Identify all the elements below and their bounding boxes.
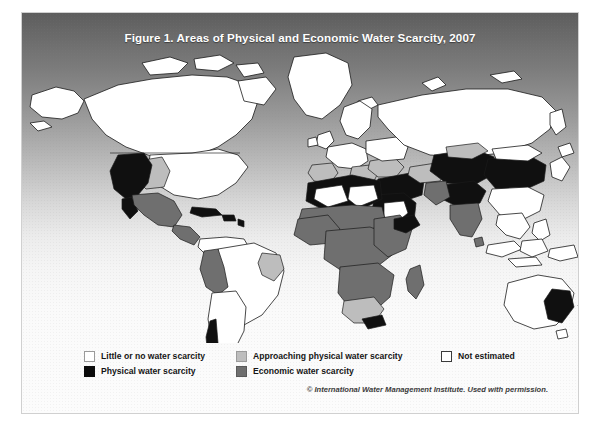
region-southeast-australia — [544, 289, 574, 323]
figure-panel: Figure 1. Areas of Physical and Economic… — [22, 13, 578, 413]
region-tasmania — [556, 329, 568, 339]
region-aleutians — [30, 121, 52, 131]
legend-label-not-estimated: Not estimated — [458, 351, 515, 362]
region-southern-chile-coast — [206, 319, 218, 343]
legend-label-little-or-no-water-scarcity: Little or no water scarcity — [101, 351, 205, 362]
region-southern-india — [450, 203, 482, 237]
region-arctic-islands-3 — [236, 63, 264, 77]
region-japan-north — [558, 143, 574, 157]
region-alaska — [30, 87, 84, 119]
figure-title: Figure 1. Areas of Physical and Economic… — [22, 31, 578, 44]
region-kamchatka — [550, 109, 566, 135]
region-lesser-antilles — [238, 219, 244, 227]
region-mexico — [132, 193, 182, 227]
legend-item-not-estimated: Not estimated — [441, 351, 551, 362]
region-scandinavia — [340, 101, 372, 139]
map-legend: Little or no water scarcity Approaching … — [84, 351, 554, 381]
region-korea-japan — [550, 157, 570, 181]
region-indonesia-borneo — [520, 239, 548, 257]
legend-label-physical-water-scarcity: Physical water scarcity — [101, 366, 196, 377]
region-sri-lanka — [474, 237, 484, 247]
region-indonesia-java — [508, 257, 542, 267]
legend-swatch-economic-water-scarcity — [236, 366, 247, 377]
legend-swatch-physical-water-scarcity — [84, 366, 95, 377]
legend-label-economic-water-scarcity: Economic water scarcity — [253, 366, 354, 377]
legend-swatch-not-estimated — [441, 351, 452, 362]
legend-row-2: Physical water scarcity Economic water s… — [84, 366, 554, 377]
region-baffin — [238, 77, 276, 105]
region-greenland — [288, 53, 352, 119]
region-canada — [84, 75, 258, 159]
legend-swatch-little-or-no-water-scarcity — [84, 351, 95, 362]
region-central-america — [172, 225, 200, 245]
legend-item-little-or-no-water-scarcity: Little or no water scarcity — [84, 351, 236, 362]
region-arctic-islands-1 — [142, 57, 188, 75]
legend-swatch-approaching-physical-water-scarcity — [236, 351, 247, 362]
region-arctic-islands-2 — [194, 55, 234, 71]
region-hispaniola — [222, 215, 236, 221]
region-novaya-zemlya — [422, 77, 446, 91]
legend-row-1: Little or no water scarcity Approaching … — [84, 351, 554, 362]
world-map: .ln { fill:#ffffff; stroke:#1a1a1a; stro… — [22, 43, 578, 343]
region-ireland — [308, 137, 318, 147]
region-indonesia-sumatra — [486, 241, 522, 257]
region-new-guinea — [548, 245, 578, 261]
region-siberia-islands — [490, 71, 522, 83]
legend-item-physical-water-scarcity: Physical water scarcity — [84, 366, 236, 377]
legend-item-approaching-physical-water-scarcity: Approaching physical water scarcity — [236, 351, 441, 362]
region-madagascar — [406, 265, 424, 299]
region-cuba — [190, 207, 222, 217]
world-map-svg: .ln { fill:#ffffff; stroke:#1a1a1a; stro… — [22, 43, 578, 343]
figure-credit: © International Water Management Institu… — [307, 385, 548, 394]
legend-item-economic-water-scarcity: Economic water scarcity — [236, 366, 441, 377]
region-western-united-states — [110, 153, 152, 199]
legend-label-approaching-physical-water-scarcity: Approaching physical water scarcity — [253, 351, 403, 362]
region-philippines — [532, 219, 550, 241]
